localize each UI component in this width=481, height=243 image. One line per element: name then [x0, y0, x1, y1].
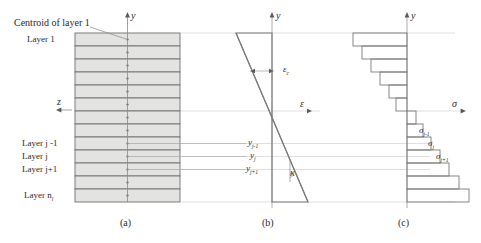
stress-axis-label: σ: [452, 99, 457, 109]
strain-marker-label: εc: [283, 65, 289, 76]
centroid-note-label: Centroid of layer 1: [14, 18, 90, 28]
panel-a-group: [56, 12, 180, 202]
layer-label-j-plus-1: Layer j+1: [22, 165, 57, 174]
panel-a-y-axis-label: y: [131, 11, 135, 21]
stress-step: [389, 85, 407, 98]
stress-label-j-minus-1: σj-1: [419, 126, 430, 137]
stress-step: [407, 111, 416, 124]
stress-label-j: σj: [428, 139, 434, 150]
y-label-j: yj: [250, 151, 256, 162]
stress-steps-compression: [353, 33, 407, 111]
stress-step: [371, 59, 407, 72]
stress-step: [407, 176, 459, 189]
panel-c-group: [353, 12, 469, 208]
figure-canvas: [0, 0, 481, 243]
stress-step: [407, 189, 469, 202]
strain-axis-arrowhead: [307, 109, 312, 113]
curvature-label: κ: [290, 168, 295, 178]
layer-label-j-minus-1: Layer j -1: [22, 139, 57, 148]
panel-c-y-arrowhead: [405, 12, 410, 17]
strain-axis-label: ε: [300, 99, 304, 109]
layer-label-1: Layer 1: [27, 35, 55, 44]
y-label-j-minus-1: yj-1: [248, 138, 258, 149]
panel-b-group: [180, 12, 320, 208]
layer-label-n: Layer nl: [24, 191, 53, 202]
stress-axis-arrowhead: [461, 109, 466, 114]
caption-b: (b): [262, 218, 274, 228]
panel-b-y-leaders: [180, 144, 246, 170]
y-label-j-plus-1: yj+1: [246, 164, 258, 175]
stress-step: [362, 46, 407, 59]
panel-a-y-arrowhead: [125, 12, 130, 17]
figure-root: Centroid of layer 1 y z y y ε σ εc κ Lay…: [0, 0, 481, 243]
stress-step: [380, 72, 407, 85]
panel-c-y-axis-label: y: [411, 11, 415, 21]
caption-a: (a): [120, 218, 131, 228]
stress-step: [353, 33, 407, 46]
panel-b-y-axis-label: y: [276, 11, 280, 21]
panel-a-z-axis-label: z: [57, 97, 61, 107]
cross-panel-guides: [180, 33, 455, 202]
panel-b-y-arrowhead: [270, 12, 275, 17]
stress-step: [396, 98, 407, 111]
panel-a-z-arrowhead: [56, 108, 61, 113]
stress-label-j-plus-1: σj+1: [436, 152, 449, 163]
caption-c: (c): [398, 218, 409, 228]
layer-label-j: Layer j: [22, 152, 48, 161]
